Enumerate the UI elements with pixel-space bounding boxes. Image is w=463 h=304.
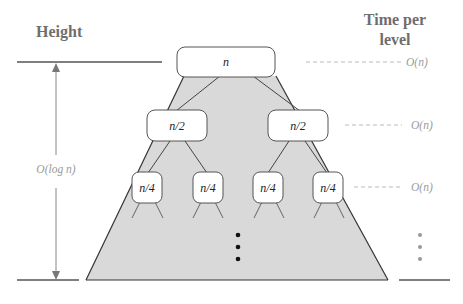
time-per-level-header-line1: Time per [364,11,426,29]
tree-node-level1: n/2 [268,110,328,141]
height-label: O(log n) [36,163,75,176]
time-per-level-header-line2: level [379,31,411,48]
node-label: n/4 [320,181,335,195]
tree-node-level2: n/4 [313,172,343,203]
arrow-down-icon [52,271,60,280]
node-label: n/2 [290,119,305,133]
arrow-up-icon [52,63,60,72]
tree-node-level1: n/2 [147,110,207,141]
level-cost-0: O(n) [406,56,428,69]
recursion-tree-diagram: Height Time per level O(log n) n n/2 [0,0,463,304]
node-label: n/4 [139,181,154,195]
cost-ellipsis-icon [418,233,422,261]
level-cost-2: O(n) [411,181,433,194]
tree-node-level2: n/4 [253,172,283,203]
level-cost-1: O(n) [411,119,433,132]
node-label: n/4 [260,181,275,195]
tree-node-level2: n/4 [132,172,162,203]
node-label: n/2 [169,119,184,133]
node-label: n [223,55,229,69]
height-header: Height [36,23,83,41]
tree-node-root: n [177,47,275,77]
tree-node-level2: n/4 [193,172,223,203]
node-label: n/4 [200,181,215,195]
